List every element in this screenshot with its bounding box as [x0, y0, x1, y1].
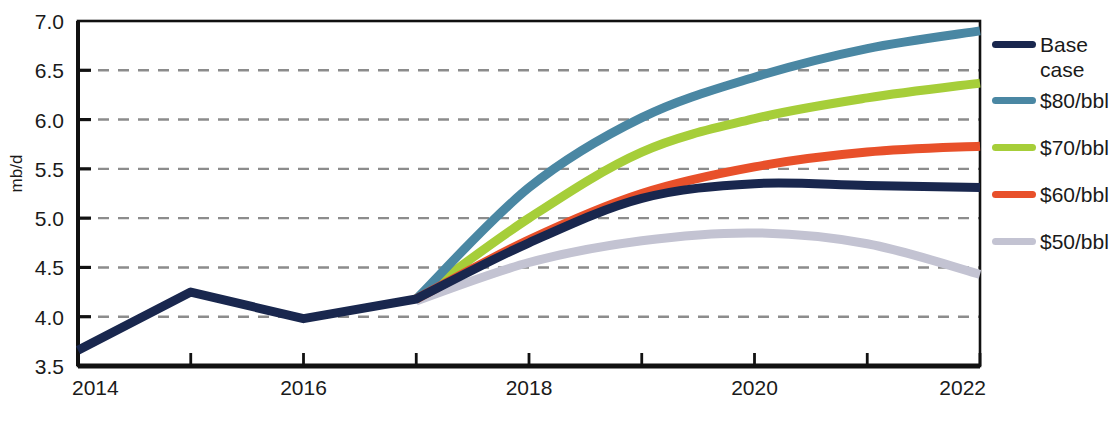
- plot-frame: [78, 21, 980, 366]
- legend-color-swatch: [992, 238, 1036, 245]
- y-axis-title: mb/d: [7, 155, 26, 193]
- legend-item-label: Base case: [1040, 32, 1088, 82]
- chart-plot-area: 7.06.56.05.55.04.54.03.5mb/d201420162018…: [0, 0, 1114, 428]
- chart-legend: Base case$80/bbl$70/bbl$60/bbl$50/bbl: [992, 32, 1114, 254]
- y-tick-label: 6.0: [35, 109, 64, 132]
- legend-color-swatch: [992, 144, 1036, 151]
- legend-item-label: $50/bbl: [1040, 229, 1109, 254]
- x-tick-label: 2018: [506, 376, 553, 399]
- y-tick-label: 7.0: [35, 10, 64, 33]
- legend-color-swatch: [992, 191, 1036, 198]
- y-tick-label: 5.0: [35, 207, 64, 230]
- x-tick-label: 2020: [731, 376, 778, 399]
- x-tick-label: 2014: [72, 376, 119, 399]
- legend-item[interactable]: $80/bbl: [992, 88, 1114, 113]
- legend-color-swatch: [992, 97, 1036, 104]
- legend-item-label: $70/bbl: [1040, 135, 1109, 160]
- x-tick-label: 2016: [280, 376, 327, 399]
- legend-item[interactable]: $50/bbl: [992, 229, 1114, 254]
- x-tick-label: 2022: [939, 376, 986, 399]
- legend-item[interactable]: Base case: [992, 32, 1114, 82]
- line-chart: 7.06.56.05.55.04.54.03.5mb/d201420162018…: [0, 0, 1114, 428]
- legend-color-swatch: [992, 41, 1036, 48]
- y-tick-label: 3.5: [35, 355, 64, 378]
- y-tick-label: 4.5: [35, 256, 64, 279]
- y-tick-label: 5.5: [35, 158, 64, 181]
- legend-item-label: $60/bbl: [1040, 182, 1109, 207]
- legend-item[interactable]: $60/bbl: [992, 182, 1114, 207]
- legend-item[interactable]: $70/bbl: [992, 135, 1114, 160]
- y-tick-label: 6.5: [35, 59, 64, 82]
- legend-item-label: $80/bbl: [1040, 88, 1109, 113]
- y-tick-label: 4.0: [35, 306, 64, 329]
